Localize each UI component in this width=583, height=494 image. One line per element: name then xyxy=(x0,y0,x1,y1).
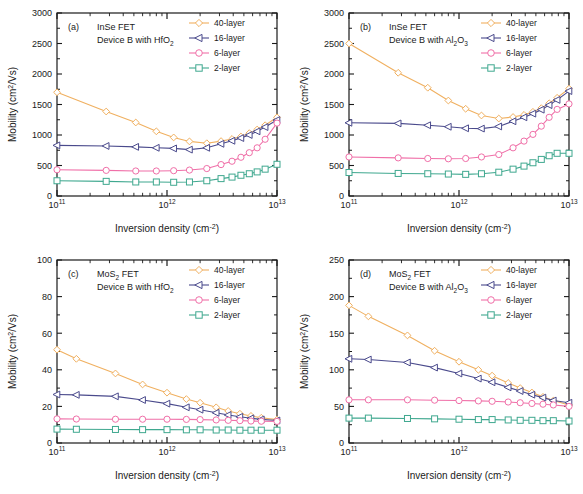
legend-item-2-layer[interactable]: 2-layer xyxy=(189,63,240,73)
legend-item-2-layer[interactable]: 2-layer xyxy=(481,63,532,73)
data-point-marker xyxy=(197,427,203,433)
data-point-marker xyxy=(274,120,280,126)
data-point-marker xyxy=(540,418,546,424)
legend-label: 40-layer xyxy=(214,18,245,28)
data-point-marker xyxy=(163,400,170,407)
series-line xyxy=(349,44,569,119)
data-point-marker xyxy=(496,169,502,175)
data-point-marker xyxy=(488,379,495,386)
y-axis-title: Mobility (cm2/Vs) xyxy=(299,67,311,142)
legend-item-40-layer[interactable]: 40-layer xyxy=(189,265,245,275)
legend-label: 2-layer xyxy=(506,63,532,73)
data-point-marker xyxy=(540,401,546,407)
y-tick-label: 40 xyxy=(42,365,52,375)
data-point-marker xyxy=(404,332,411,339)
legend-label: 16-layer xyxy=(214,280,245,290)
legend-item-6-layer[interactable]: 6-layer xyxy=(481,295,532,305)
legend-item-16-layer[interactable]: 16-layer xyxy=(481,33,537,43)
y-axis-title: Mobility (cm2/Vs) xyxy=(299,314,311,389)
data-point-marker xyxy=(345,355,352,362)
legend-label: 6-layer xyxy=(506,48,532,58)
data-point-marker xyxy=(170,145,177,152)
y-tick-label: 60 xyxy=(42,329,52,339)
data-point-marker xyxy=(431,347,438,354)
chart-panel-d: 05010015020025010111012101340-layer16-la… xyxy=(292,247,583,494)
data-point-marker xyxy=(456,416,462,422)
data-point-marker xyxy=(445,171,451,177)
data-point-marker xyxy=(274,418,280,424)
x-tick-label: 1013 xyxy=(268,198,286,210)
data-point-marker xyxy=(103,167,109,173)
x-axis-title: Inversion density (cm-2) xyxy=(407,470,511,482)
legend-item-40-layer[interactable]: 40-layer xyxy=(189,18,245,28)
data-point-marker xyxy=(54,426,60,432)
legend-label: 16-layer xyxy=(214,33,245,43)
chart-panel-c: 02040608010010111012101340-layer16-layer… xyxy=(0,247,291,494)
legend-item-6-layer[interactable]: 6-layer xyxy=(189,295,240,305)
legend-item-2-layer[interactable]: 2-layer xyxy=(189,310,240,320)
y-tick-label: 2500 xyxy=(32,39,52,49)
data-point-marker xyxy=(274,161,280,167)
data-point-marker xyxy=(488,50,495,57)
data-point-marker xyxy=(262,136,268,142)
data-point-marker xyxy=(112,426,118,432)
data-point-marker xyxy=(183,416,189,422)
legend-item-2-layer[interactable]: 2-layer xyxy=(481,310,532,320)
data-point-marker xyxy=(185,146,192,153)
panel-annotation: (b)InSe FETDevice B with Al2O3 xyxy=(360,22,468,47)
legend-label: 40-layer xyxy=(506,265,537,275)
data-point-marker xyxy=(73,355,80,362)
y-tick-label: 100 xyxy=(37,255,52,265)
data-point-marker xyxy=(487,34,494,41)
data-point-marker xyxy=(462,125,469,132)
data-point-marker xyxy=(254,145,260,151)
legend-item-40-layer[interactable]: 40-layer xyxy=(481,265,537,275)
data-point-marker xyxy=(195,19,202,26)
legend-item-16-layer[interactable]: 16-layer xyxy=(189,33,245,43)
data-point-marker xyxy=(54,346,61,353)
data-point-marker xyxy=(171,179,177,185)
annotation-line-2: Device B with HfO2 xyxy=(97,282,174,294)
series-2-layer xyxy=(54,161,280,185)
legend-item-6-layer[interactable]: 6-layer xyxy=(481,48,532,58)
legend-item-6-layer[interactable]: 6-layer xyxy=(189,48,240,58)
data-point-marker xyxy=(395,155,401,161)
legend-label: 40-layer xyxy=(214,265,245,275)
y-tick-label: 3000 xyxy=(32,8,52,18)
data-point-marker xyxy=(529,417,535,423)
legend-item-16-layer[interactable]: 16-layer xyxy=(481,280,537,290)
data-point-marker xyxy=(488,312,494,318)
data-point-marker xyxy=(195,281,202,288)
panel-label: (c) xyxy=(68,269,79,279)
y-tick-label: 80 xyxy=(42,292,52,302)
series-line xyxy=(349,305,569,405)
legend-label: 40-layer xyxy=(506,18,537,28)
legend-label: 16-layer xyxy=(506,280,537,290)
series-line xyxy=(57,123,277,171)
legend-item-16-layer[interactable]: 16-layer xyxy=(189,280,245,290)
data-point-marker xyxy=(365,397,371,403)
data-point-marker xyxy=(204,165,210,171)
data-point-marker xyxy=(517,417,523,423)
data-point-marker xyxy=(404,397,410,403)
annotation-line-1: MoS2 FET xyxy=(389,269,431,281)
series-6-layer xyxy=(346,397,572,410)
data-point-marker xyxy=(478,171,484,177)
data-point-marker xyxy=(248,427,254,433)
data-point-marker xyxy=(196,65,202,71)
data-point-marker xyxy=(475,417,481,423)
data-point-marker xyxy=(546,153,552,159)
legend-item-40-layer[interactable]: 40-layer xyxy=(481,18,537,28)
data-point-marker xyxy=(425,171,431,177)
data-point-marker xyxy=(510,166,516,172)
data-point-marker xyxy=(254,169,260,175)
x-tick-label: 1012 xyxy=(158,198,176,210)
x-axis-title: Inversion density (cm-2) xyxy=(115,223,219,235)
data-point-marker xyxy=(133,179,139,185)
data-point-marker xyxy=(346,302,353,309)
x-axis-title: Inversion density (cm-2) xyxy=(115,470,219,482)
legend-label: 2-layer xyxy=(214,310,240,320)
data-point-marker xyxy=(54,89,61,96)
data-point-marker xyxy=(346,170,352,176)
series-2-layer xyxy=(54,426,280,433)
